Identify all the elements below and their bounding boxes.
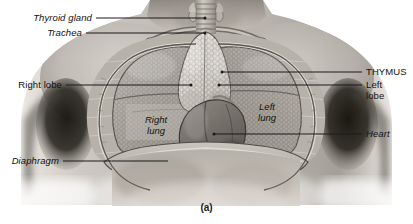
label-thymus: THYMUS bbox=[366, 66, 407, 78]
figure-caption: (a) bbox=[0, 202, 413, 213]
inlabel-left-lung-line1: Left bbox=[242, 101, 292, 112]
inlabel-right-lung-line2: lung bbox=[128, 125, 184, 136]
label-heart: Heart bbox=[366, 128, 390, 140]
label-trachea: Trachea bbox=[4, 27, 82, 39]
inlabel-left-lung-line2: lung bbox=[242, 112, 292, 123]
inlabel-right-lung-line1: Right bbox=[128, 114, 184, 125]
label-thyroid-gland: Thyroid gland bbox=[4, 12, 92, 24]
anatomy-figure: Thyroid gland Trachea Right lobe Diaphra… bbox=[0, 0, 413, 224]
label-diaphragm: Diaphragm bbox=[2, 155, 59, 167]
label-right-lobe: Right lobe bbox=[2, 79, 62, 91]
label-left-lobe-line2: lobe bbox=[366, 90, 384, 102]
label-left-lobe-line1: Left bbox=[366, 79, 382, 91]
